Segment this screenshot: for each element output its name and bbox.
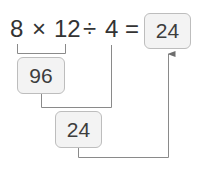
operand-4: 4	[105, 17, 118, 41]
operand-8: 8	[10, 17, 23, 41]
bracket-8-times-12	[18, 44, 66, 54]
step-box-96: 96	[17, 57, 65, 94]
result-box: 24	[144, 13, 191, 49]
operand-12: 12	[54, 17, 81, 41]
equals-sign: =	[125, 17, 139, 41]
step-box-24: 24	[55, 111, 102, 148]
divide-sign: ÷	[83, 17, 96, 41]
times-sign: ×	[32, 17, 46, 41]
